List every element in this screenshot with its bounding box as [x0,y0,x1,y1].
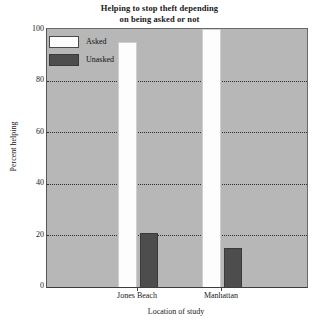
legend-swatch-unasked-icon [49,54,79,66]
y-tick-label-60: 60 [18,128,44,136]
legend-label-unasked: Unasked [86,55,114,64]
x-axis-title: Location of study [46,307,306,316]
chart-title-line-1: Helping to stop theft depending [0,3,319,14]
x-tick-label-jones-beach: Jones Beach [92,291,182,300]
chart-title: Helping to stop theft depending on being… [0,3,319,24]
legend-item-unasked: Unasked [49,53,169,66]
gridline-20 [47,235,307,236]
gridline-80 [47,81,307,82]
gridline-40 [47,184,307,185]
y-tick-label-0: 0 [18,282,44,290]
legend-label-asked: Asked [86,37,106,46]
bar-manhattan-unasked [224,248,242,287]
chart-figure: Helping to stop theft depending on being… [0,0,319,321]
bar-jones-beach-unasked [140,233,158,287]
plot-area: Asked Unasked [46,28,308,288]
chart-title-line-2: on being asked or not [0,14,319,25]
legend-swatch-asked-icon [49,36,79,48]
x-tick-label-manhattan: Manhattan [176,291,266,300]
y-tick-label-20: 20 [18,231,44,239]
y-axis-title: Percent helping [9,87,18,207]
bar-jones-beach-asked [118,42,137,287]
chart-legend: Asked Unasked [49,35,169,71]
gridline-60 [47,132,307,133]
legend-item-asked: Asked [49,35,169,48]
y-tick-label-80: 80 [18,76,44,84]
y-tick-label-100: 100 [18,25,44,33]
bar-manhattan-asked [202,29,221,287]
y-tick-label-40: 40 [18,179,44,187]
